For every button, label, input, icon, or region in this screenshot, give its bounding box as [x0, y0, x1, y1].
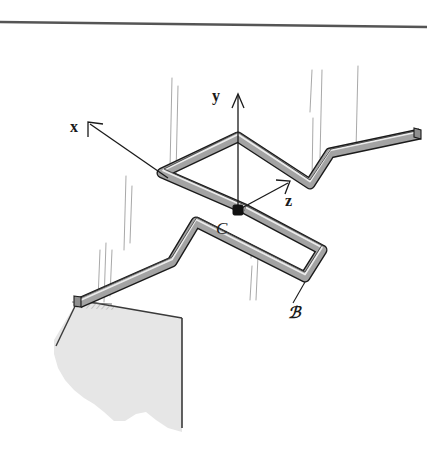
bent-rod-figure: x y z C ℬ [0, 0, 427, 451]
figure-canvas [0, 0, 427, 451]
rod-free-end-cap [414, 128, 421, 139]
bent-rod [74, 128, 421, 307]
axis-x-label: x [70, 118, 78, 136]
axis-z-label: z [285, 192, 292, 210]
axis-x-arrow [88, 122, 168, 178]
projection-lines [98, 66, 358, 302]
rod-fixed-end-cap [74, 296, 81, 307]
body-b-label: ℬ [288, 303, 301, 322]
axis-z-arrow [238, 180, 290, 210]
axis-y-label: y [212, 87, 220, 105]
wall-block [54, 300, 182, 432]
page-divider-rule [0, 22, 427, 27]
body-label-leader [293, 282, 305, 303]
origin-point-marker [233, 205, 243, 215]
point-c-label: C [216, 219, 227, 239]
axis-y-arrow [232, 94, 244, 210]
